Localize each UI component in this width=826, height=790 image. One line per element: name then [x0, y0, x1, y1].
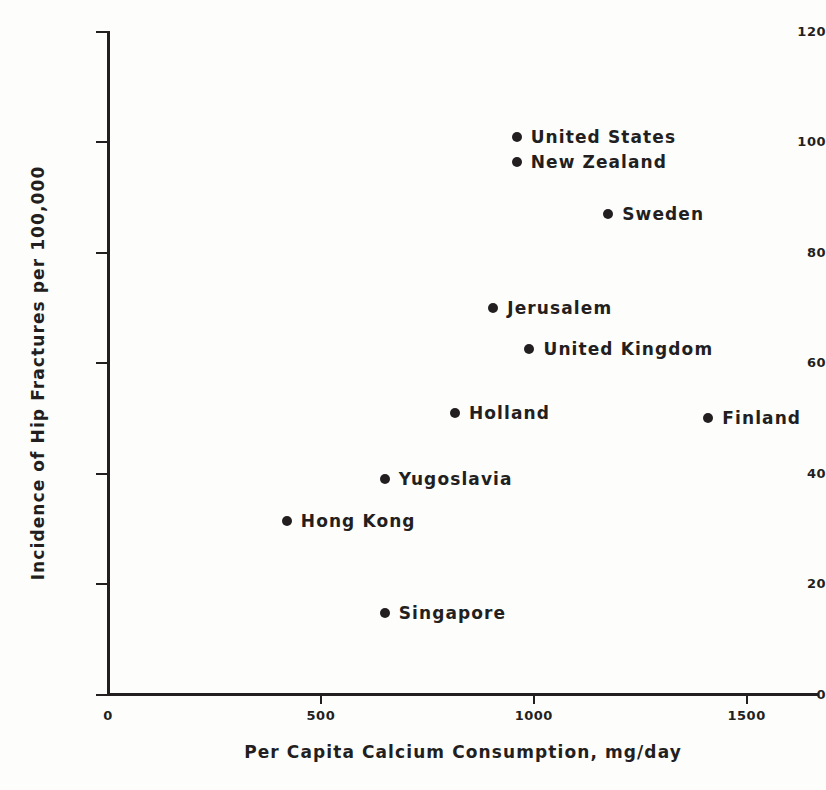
- y-tick-label: 80: [734, 245, 826, 260]
- data-point-label: Sweden: [622, 204, 704, 224]
- data-point-label: Finland: [722, 408, 801, 428]
- data-point-label: Holland: [469, 403, 550, 423]
- y-tick-mark: [96, 141, 108, 143]
- data-point-marker: [380, 474, 390, 484]
- y-tick-label: 120: [734, 24, 826, 39]
- y-tick-mark: [96, 473, 108, 475]
- y-tick-mark: [96, 252, 108, 254]
- data-point-marker: [488, 303, 498, 313]
- data-point-label: Singapore: [399, 603, 506, 623]
- x-axis-line: [107, 693, 819, 696]
- y-axis-title: Incidence of Hip Fractures per 100,000: [28, 41, 48, 706]
- data-point-label: Yugoslavia: [399, 469, 513, 489]
- y-tick-mark: [96, 583, 108, 585]
- data-point-marker: [380, 608, 390, 618]
- data-point-marker: [512, 157, 522, 167]
- x-axis-title: Per Capita Calcium Consumption, mg/day: [107, 742, 819, 762]
- x-tick-label: 1000: [515, 708, 553, 723]
- y-tick-mark: [96, 31, 108, 33]
- x-tick-label: 0: [103, 708, 113, 723]
- y-tick-label: 40: [734, 466, 826, 481]
- y-tick-label: 20: [734, 576, 826, 591]
- x-tick-mark: [320, 693, 322, 704]
- x-tick-label: 500: [307, 708, 336, 723]
- x-tick-label: 1500: [728, 708, 766, 723]
- y-tick-label: 60: [734, 355, 826, 370]
- y-tick-label: 0: [734, 687, 826, 702]
- data-point-marker: [603, 209, 613, 219]
- data-point-marker: [703, 413, 713, 423]
- y-tick-mark: [96, 362, 108, 364]
- scatter-chart: 020406080100120 050010001500 United Stat…: [0, 0, 826, 790]
- x-tick-mark: [746, 693, 748, 704]
- data-point-label: Hong Kong: [301, 511, 416, 531]
- data-point-marker: [524, 344, 534, 354]
- y-tick-label: 100: [734, 134, 826, 149]
- data-point-label: United Kingdom: [543, 339, 713, 359]
- y-tick-mark: [96, 694, 108, 696]
- data-point-label: United States: [531, 127, 676, 147]
- data-point-label: Jerusalem: [507, 298, 612, 318]
- data-point-marker: [450, 408, 460, 418]
- data-point-label: New Zealand: [531, 152, 667, 172]
- data-point-marker: [282, 516, 292, 526]
- x-tick-mark: [533, 693, 535, 704]
- data-point-marker: [512, 132, 522, 142]
